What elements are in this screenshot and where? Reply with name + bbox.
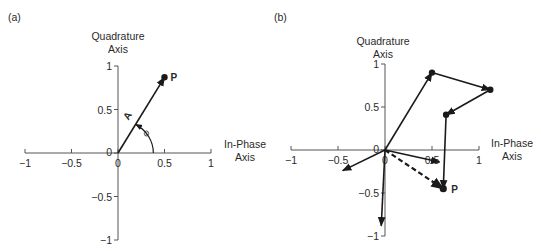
phasor-figure: (a) Quadrature Axis In-Phase Axis −1−0.5…	[0, 0, 541, 251]
y-tick-label: 0.5	[97, 104, 112, 116]
origin-vector	[343, 150, 385, 171]
phasor-a: PAφ	[118, 72, 178, 153]
x-tick-label: 1	[476, 154, 482, 166]
y-axis-title-line1: Quadrature	[356, 35, 409, 47]
y-tick-label: −1	[100, 234, 112, 246]
y-tick-label: −1	[367, 230, 379, 242]
y-tick-label: 1	[373, 58, 379, 70]
origin-label: 0	[106, 146, 112, 158]
y-tick-label: 0.5	[364, 101, 379, 113]
y-tick-label: −0.5	[91, 191, 112, 203]
x-tick-label: −0.5	[328, 154, 349, 166]
x-tick-label: −1	[19, 157, 31, 169]
panel-a: (a) Quadrature Axis In-Phase Axis −1−0.5…	[8, 11, 266, 246]
x-tick-label: 1	[208, 157, 214, 169]
x-tick-label: 0.5	[157, 157, 172, 169]
y-axis-title-line1: Quadrature	[91, 30, 144, 42]
y-axis-title-line2: Axis	[108, 43, 128, 55]
phasor-b: P	[343, 69, 494, 225]
point-p-label: P	[451, 184, 458, 195]
chain-vector	[443, 115, 446, 189]
y-tick-label: −0.5	[358, 187, 379, 199]
x-axis-title-line2: Axis	[235, 151, 255, 163]
chain-vector	[432, 73, 490, 90]
x-axis-title-line2: Axis	[502, 150, 522, 162]
axes-a: −1−0.500.5110.50−0.5−1	[19, 60, 214, 246]
x-tick-label: −1	[285, 154, 297, 166]
point-p	[440, 185, 447, 192]
vector-label-a: A	[121, 110, 134, 122]
panel-label-a: (a)	[8, 11, 21, 23]
point-p-label: P	[171, 72, 178, 83]
x-tick-label: 0	[115, 157, 121, 169]
point-p	[161, 74, 167, 80]
panel-label-b: (b)	[274, 11, 287, 23]
panel-b: (b) Quadrature Axis In-Phase Axis −1−0.5…	[274, 11, 533, 242]
phase-angle-label: φ	[140, 127, 151, 138]
x-tick-label: −0.5	[61, 157, 82, 169]
chain-vector	[446, 90, 490, 115]
x-axis-title-line1: In-Phase	[491, 137, 533, 149]
chain-vector	[385, 73, 432, 150]
x-axis-title-line1: In-Phase	[224, 138, 266, 150]
y-tick-label: 1	[106, 60, 112, 72]
